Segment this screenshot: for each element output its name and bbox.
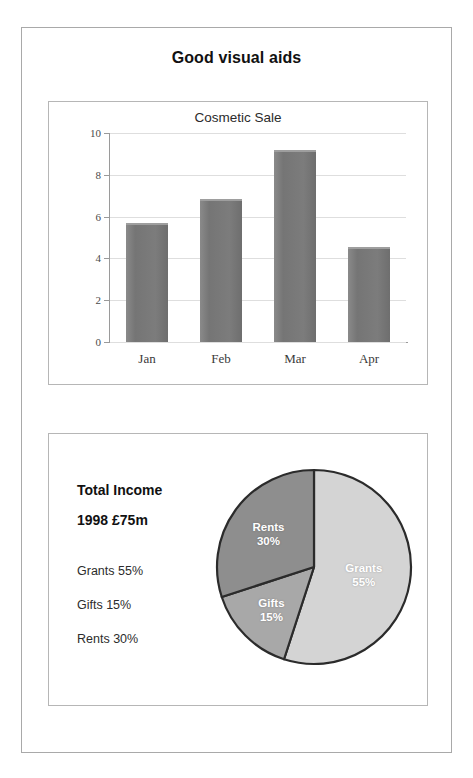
y-tick-label-2: 2 <box>96 294 102 306</box>
legend-item-gifts: Gifts 15% <box>77 598 227 612</box>
pie-heading-total-income: Total Income <box>77 482 227 498</box>
pie-label-grants: Grants55% <box>345 561 382 590</box>
pie-text-block: Total Income 1998 £75m Grants 55% Gifts … <box>77 482 227 666</box>
pie-label-rents: Rents30% <box>253 520 285 549</box>
bars-layer: JanFebMarApr <box>110 133 406 342</box>
bar-group-feb: Feb <box>184 133 258 342</box>
page-title: Good visual aids <box>22 49 451 67</box>
y-tick-label-4: 4 <box>96 252 102 264</box>
x-tick-label-apr: Apr <box>359 351 379 367</box>
pie-heading-year-amount: 1998 £75m <box>77 512 227 528</box>
x-tick-label-feb: Feb <box>211 351 231 367</box>
bar-feb <box>200 199 243 342</box>
bar-chart-title: Cosmetic Sale <box>49 110 427 125</box>
bar-mar <box>274 150 317 342</box>
bar-jan <box>126 223 169 342</box>
pie-chart-svg <box>213 466 415 668</box>
bar-group-apr: Apr <box>332 133 406 342</box>
legend-item-rents: Rents 30% <box>77 632 227 646</box>
y-tick-mark-0 <box>104 342 110 343</box>
x-tick-label-mar: Mar <box>284 351 306 367</box>
y-tick-label-8: 8 <box>96 169 102 181</box>
legend-item-grants: Grants 55% <box>77 564 227 578</box>
slide-frame: Good visual aids Cosmetic Sale 0246810 J… <box>21 27 452 753</box>
pie-chart-figure: Grants55%Gifts15%Rents30% <box>213 466 415 668</box>
bar-chart-panel: Cosmetic Sale 0246810 JanFebMarApr <box>48 101 428 385</box>
y-tick-label-6: 6 <box>96 211 102 223</box>
y-tick-label-10: 10 <box>90 127 101 139</box>
gridline-0 <box>110 342 406 343</box>
bar-group-mar: Mar <box>258 133 332 342</box>
bar-chart-plot-area: 0246810 JanFebMarApr <box>110 133 406 342</box>
x-tick-label-jan: Jan <box>138 351 155 367</box>
bar-apr <box>348 247 391 342</box>
pie-chart-panel: Total Income 1998 £75m Grants 55% Gifts … <box>48 433 428 706</box>
bar-group-jan: Jan <box>110 133 184 342</box>
pie-label-gifts: Gifts15% <box>258 595 284 624</box>
y-tick-label-0: 0 <box>96 336 102 348</box>
